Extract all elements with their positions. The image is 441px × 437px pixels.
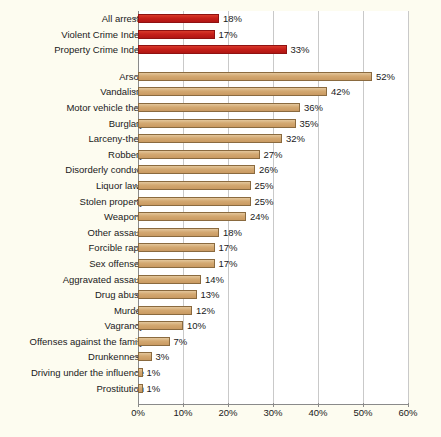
category-label: Motor vehicle theft — [66, 100, 144, 116]
chart-row: Stolen property25% — [0, 194, 441, 210]
bar-aggravated-assault — [138, 275, 201, 284]
bar-forcible-rape — [138, 243, 215, 252]
chart-row: Vandalism42% — [0, 84, 441, 100]
bar-prostitution — [138, 384, 143, 393]
bar-value-label: 26% — [259, 162, 278, 178]
bar-driving-under-the-influence — [138, 368, 143, 377]
chart-row: Weapons24% — [0, 209, 441, 225]
chart-row: Robbery27% — [0, 147, 441, 163]
bar-rows: All arrests18%Violent Crime Index17%Prop… — [0, 11, 441, 396]
bar-stolen-property — [138, 197, 251, 206]
bar-drug-abuse — [138, 290, 197, 299]
chart-row: Larceny-theft32% — [0, 131, 441, 147]
x-axis-tick — [138, 403, 139, 407]
x-axis-tick — [408, 403, 409, 407]
bar-other-assault — [138, 228, 219, 237]
bar-value-label: 32% — [286, 131, 305, 147]
x-axis-tick — [273, 403, 274, 407]
bar-burglary — [138, 119, 296, 128]
bar-larceny-theft — [138, 134, 282, 143]
chart-row: Arson52% — [0, 69, 441, 85]
bar-liquor-laws — [138, 181, 251, 190]
chart-row: Motor vehicle theft36% — [0, 100, 441, 116]
bar-arson — [138, 72, 372, 81]
x-axis-tick — [363, 403, 364, 407]
bar-motor-vehicle-theft — [138, 103, 300, 112]
chart-row: Property Crime Index33% — [0, 42, 441, 58]
bar-weapons — [138, 212, 246, 221]
bar-violent-crime-index — [138, 30, 215, 39]
category-label: Driving under the influence — [31, 365, 144, 381]
bar-vandalism — [138, 87, 327, 96]
chart-row: Violent Crime Index17% — [0, 27, 441, 43]
bar-value-label: 1% — [147, 381, 161, 397]
chart-row: Murder12% — [0, 303, 441, 319]
bar-value-label: 12% — [196, 303, 215, 319]
category-label: Property Crime Index — [54, 42, 144, 58]
bar-murder — [138, 306, 192, 315]
bar-value-label: 25% — [255, 178, 274, 194]
bar-offenses-against-the-family — [138, 337, 170, 346]
bar-value-label: 24% — [250, 209, 269, 225]
x-tick-label-10: 10% — [173, 407, 192, 418]
chart-row: Liquor laws25% — [0, 178, 441, 194]
chart-row: Drug abuse13% — [0, 287, 441, 303]
bar-value-label: 27% — [264, 147, 283, 163]
bar-chart: All arrests18%Violent Crime Index17%Prop… — [0, 0, 441, 437]
row-gap — [0, 58, 441, 69]
bar-value-label: 36% — [304, 100, 323, 116]
x-tick-label-20: 20% — [218, 407, 237, 418]
x-tick-label-40: 40% — [308, 407, 327, 418]
bar-value-label: 18% — [223, 225, 242, 241]
bar-sex-offenses — [138, 259, 215, 268]
x-tick-label-50: 50% — [353, 407, 372, 418]
x-tick-label-60: 60% — [398, 407, 417, 418]
category-label: Disorderly conduct — [65, 162, 144, 178]
x-tick-label-0: 0% — [131, 407, 145, 418]
x-axis-tick-labels: 0%10%20%30%40%50%60% — [0, 407, 441, 423]
chart-row: All arrests18% — [0, 11, 441, 27]
bar-value-label: 17% — [219, 256, 238, 272]
bar-disorderly-conduct — [138, 165, 255, 174]
bar-value-label: 33% — [291, 42, 310, 58]
x-axis-tick — [183, 403, 184, 407]
bar-robbery — [138, 150, 260, 159]
bar-value-label: 7% — [174, 334, 188, 350]
chart-row: Driving under the influence1% — [0, 365, 441, 381]
chart-row: Disorderly conduct26% — [0, 162, 441, 178]
bar-value-label: 35% — [300, 116, 319, 132]
bar-value-label: 17% — [219, 27, 238, 43]
bar-value-label: 25% — [255, 194, 274, 210]
chart-row: Aggravated assault14% — [0, 272, 441, 288]
bar-value-label: 13% — [201, 287, 220, 303]
chart-row: Drunkenness3% — [0, 349, 441, 365]
x-axis-tick — [228, 403, 229, 407]
x-tick-label-30: 30% — [263, 407, 282, 418]
bar-value-label: 17% — [219, 240, 238, 256]
bar-all-arrests — [138, 14, 219, 23]
bar-value-label: 52% — [376, 69, 395, 85]
x-axis-tick — [318, 403, 319, 407]
chart-row: Sex offenses17% — [0, 256, 441, 272]
chart-row: Prostitution1% — [0, 381, 441, 397]
chart-row: Vagrancy10% — [0, 318, 441, 334]
chart-row: Forcible rape17% — [0, 240, 441, 256]
bar-vagrancy — [138, 321, 183, 330]
bar-property-crime-index — [138, 45, 287, 54]
bar-drunkenness — [138, 352, 152, 361]
chart-row: Burglary35% — [0, 116, 441, 132]
chart-row: Other assault18% — [0, 225, 441, 241]
bar-value-label: 1% — [147, 365, 161, 381]
chart-row: Offenses against the family7% — [0, 334, 441, 350]
bar-value-label: 42% — [331, 84, 350, 100]
category-label: Offenses against the family — [30, 334, 144, 350]
bar-value-label: 18% — [223, 11, 242, 27]
category-label: Aggravated assault — [63, 272, 144, 288]
category-label: Violent Crime Index — [61, 27, 144, 43]
bar-value-label: 3% — [156, 349, 170, 365]
bar-value-label: 14% — [205, 272, 224, 288]
bar-value-label: 10% — [187, 318, 206, 334]
